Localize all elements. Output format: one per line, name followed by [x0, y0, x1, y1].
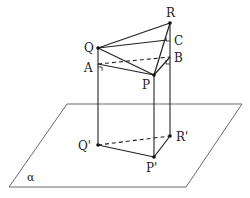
point-Qprime: [96, 143, 100, 147]
point-R: [168, 21, 172, 25]
point-Q: [96, 46, 100, 50]
label-C: C: [174, 34, 183, 48]
point-Pprime: [152, 155, 156, 159]
segment-Qprime-Pprime: [98, 145, 154, 157]
label-P: P: [142, 78, 150, 92]
segment-Qprime-Rprime-dashed: [98, 136, 170, 145]
label-B: B: [174, 51, 183, 65]
plane-label-alpha: α: [27, 171, 35, 184]
geometry-diagram: α Q R C B A P Q' R' P': [0, 0, 250, 198]
label-Rprime: R': [176, 130, 188, 144]
label-R: R: [166, 6, 176, 20]
label-Q: Q: [84, 41, 94, 55]
plane-alpha: [9, 104, 242, 187]
point-P: [152, 73, 156, 77]
segment-P-R: [154, 23, 170, 75]
label-Qprime: Q': [78, 139, 91, 153]
segment-Pprime-Rprime: [154, 136, 170, 157]
label-A: A: [83, 61, 93, 75]
point-Rprime: [168, 134, 172, 138]
label-Pprime: P': [146, 161, 157, 175]
segment-A-P: [98, 64, 154, 75]
right-angle-marker-A: [98, 67, 102, 71]
